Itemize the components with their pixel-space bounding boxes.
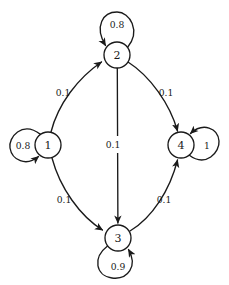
edge-node2-to-node3: 0.1 — [103, 68, 124, 223]
edge-node1-to-node2-label: 0.1 — [56, 87, 71, 98]
edge-node2-to-node3-label: 0.1 — [106, 139, 121, 150]
edge-node1-to-node3-label: 0.1 — [57, 194, 72, 205]
edge-node3-to-node4-label: 0.1 — [157, 194, 172, 205]
node-1-label: 1 — [45, 139, 52, 152]
node-3-label: 3 — [115, 232, 122, 245]
state-transition-diagram: 0.8 0.8 0.9 1 0.1 0.1 — [0, 0, 229, 285]
node-2[interactable]: 2 — [104, 42, 130, 68]
node-4[interactable]: 4 — [168, 132, 194, 158]
graph-canvas: 0.8 0.8 0.9 1 0.1 0.1 — [0, 0, 229, 285]
self-loop-node-2-label: 0.8 — [110, 19, 125, 30]
edge-node2-to-node4-label: 0.1 — [159, 87, 174, 98]
self-loop-node-3-label: 0.9 — [111, 261, 126, 272]
edge-node1-to-node2: 0.1 — [51, 62, 102, 132]
node-2-label: 2 — [114, 49, 121, 62]
self-loop-node-4-label: 1 — [204, 140, 210, 151]
edge-node3-to-node4: 0.1 — [130, 160, 178, 231]
edge-node1-to-node3: 0.1 — [52, 158, 103, 230]
node-1[interactable]: 1 — [35, 132, 61, 158]
node-3[interactable]: 3 — [105, 225, 131, 251]
node-4-label: 4 — [178, 139, 185, 152]
self-loop-node-1-label: 0.8 — [16, 140, 31, 151]
edge-node2-to-node4: 0.1 — [128, 62, 178, 131]
